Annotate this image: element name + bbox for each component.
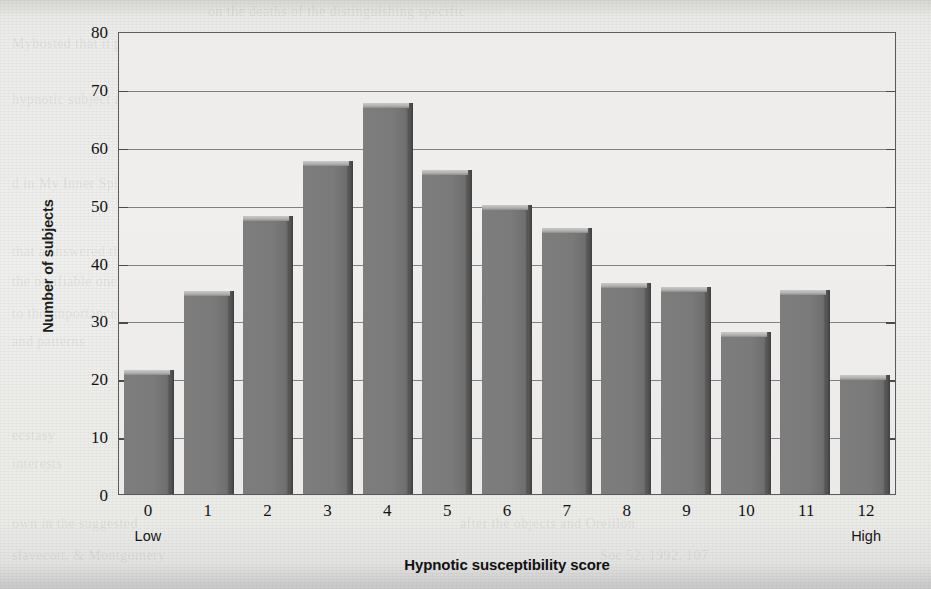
- x-tick-label: 7: [537, 501, 597, 525]
- bar-slot: [537, 33, 597, 494]
- bar: [601, 283, 651, 494]
- x-sublabel-empty: [776, 528, 836, 550]
- x-sublabel-empty: [657, 528, 717, 550]
- y-tick-label: 50: [46, 197, 108, 214]
- bar-slot: [358, 33, 418, 494]
- x-tick-label: 3: [298, 501, 358, 525]
- x-sublabel-empty: [597, 528, 657, 550]
- x-axis-tick-labels: 0123456789101112: [118, 501, 896, 525]
- bar: [422, 170, 472, 494]
- bar: [184, 291, 234, 494]
- bar: [542, 228, 592, 494]
- x-tick-label: 0: [118, 501, 178, 525]
- x-axis-sublabels: LowHigh: [118, 528, 896, 550]
- bar-series: [119, 33, 895, 494]
- x-tick-label: 5: [417, 501, 477, 525]
- bar: [840, 375, 890, 494]
- y-tick-label: 10: [46, 429, 108, 446]
- x-sublabel-empty: [537, 528, 597, 550]
- bar-chart-figure: Number of subjects 01020304050607080 012…: [0, 0, 931, 589]
- y-tick-label: 30: [46, 313, 108, 330]
- x-sublabel-empty: [178, 528, 238, 550]
- x-tick-label: 6: [477, 501, 537, 525]
- y-tick-label: 0: [46, 487, 108, 504]
- x-tick-label: 4: [357, 501, 417, 525]
- bar-slot: [477, 33, 537, 494]
- bar: [780, 290, 830, 494]
- bar-slot: [835, 33, 895, 494]
- x-sublabel-low: Low: [118, 528, 178, 550]
- bar: [363, 103, 413, 494]
- x-sublabel-high: High: [836, 528, 896, 550]
- y-tick-label: 20: [46, 371, 108, 388]
- bar-slot: [119, 33, 179, 494]
- bar-slot: [238, 33, 298, 494]
- bar-slot: [597, 33, 657, 494]
- bar-slot: [716, 33, 776, 494]
- y-axis-tick-labels: 01020304050607080: [46, 22, 108, 504]
- bar: [303, 161, 353, 494]
- x-sublabel-empty: [477, 528, 537, 550]
- x-tick-label: 11: [776, 501, 836, 525]
- x-tick-label: 1: [178, 501, 238, 525]
- x-sublabel-empty: [238, 528, 298, 550]
- bar: [721, 332, 771, 494]
- x-sublabel-empty: [716, 528, 776, 550]
- x-sublabel-empty: [298, 528, 358, 550]
- x-tick-label: 12: [836, 501, 896, 525]
- bar: [243, 216, 293, 494]
- bar-slot: [776, 33, 836, 494]
- bar-slot: [656, 33, 716, 494]
- x-tick-label: 9: [657, 501, 717, 525]
- bar-slot: [179, 33, 239, 494]
- plot-area: [118, 32, 896, 495]
- scanned-page: on the deaths of the distinguishing spec…: [0, 0, 931, 589]
- x-sublabel-empty: [417, 528, 477, 550]
- y-tick-label: 80: [46, 24, 108, 41]
- x-tick-label: 2: [238, 501, 298, 525]
- x-tick-label: 10: [716, 501, 776, 525]
- bar: [124, 370, 174, 494]
- x-sublabel-empty: [357, 528, 417, 550]
- y-tick-label: 60: [46, 139, 108, 156]
- bar-slot: [417, 33, 477, 494]
- y-tick-label: 40: [46, 255, 108, 272]
- bar: [661, 287, 711, 494]
- bar: [482, 205, 532, 494]
- x-axis-title: Hypnotic susceptibility score: [118, 556, 896, 573]
- bar-slot: [298, 33, 358, 494]
- x-tick-label: 8: [597, 501, 657, 525]
- y-tick-label: 70: [46, 81, 108, 98]
